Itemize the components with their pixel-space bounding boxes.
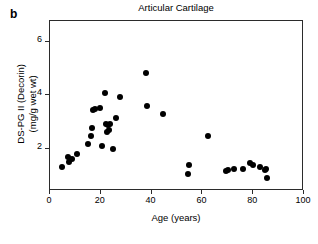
- y-axis-tick: [45, 41, 49, 42]
- chart-title: Articular Cartilage: [49, 2, 303, 13]
- x-axis-tick: [151, 190, 152, 194]
- y-axis-tick: [45, 94, 49, 95]
- y-axis-tick: [45, 148, 49, 149]
- x-axis-tick: [49, 190, 50, 194]
- y-axis-label: DS-PG II (Decorin) (mg/g wet wt): [15, 19, 39, 189]
- scatter-point: [205, 133, 211, 139]
- scatter-point: [89, 125, 95, 131]
- x-axis-tick-label: 100: [288, 196, 318, 206]
- scatter-point: [85, 141, 91, 147]
- scatter-point: [107, 121, 113, 127]
- scatter-point: [117, 94, 123, 100]
- y-axis-label-line1: DS-PG II (Decorin): [15, 19, 27, 189]
- x-axis-tick-label: 40: [136, 196, 166, 206]
- x-axis-tick: [100, 190, 101, 194]
- scatter-point: [102, 90, 108, 96]
- y-axis-label-line2: (mg/g wet wt): [27, 19, 39, 189]
- scatter-point: [97, 105, 103, 111]
- scatter-point: [88, 133, 94, 139]
- scatter-point: [186, 162, 192, 168]
- scatter-point: [231, 166, 237, 172]
- figure-panel-b: b Articular Cartilage 020406080100246 Ag…: [0, 0, 318, 244]
- scatter-point: [264, 175, 270, 181]
- x-axis-tick-label: 20: [85, 196, 115, 206]
- x-axis-tick-label: 80: [237, 196, 267, 206]
- x-axis-tick-label: 60: [186, 196, 216, 206]
- scatter-point: [110, 146, 116, 152]
- x-axis-tick-label: 0: [34, 196, 64, 206]
- scatter-point: [263, 166, 269, 172]
- plot-area: [49, 20, 303, 190]
- x-axis-tick: [201, 190, 202, 194]
- x-axis-tick: [303, 190, 304, 194]
- scatter-point: [240, 166, 246, 172]
- x-axis-label: Age (years): [49, 212, 303, 223]
- x-axis-tick: [252, 190, 253, 194]
